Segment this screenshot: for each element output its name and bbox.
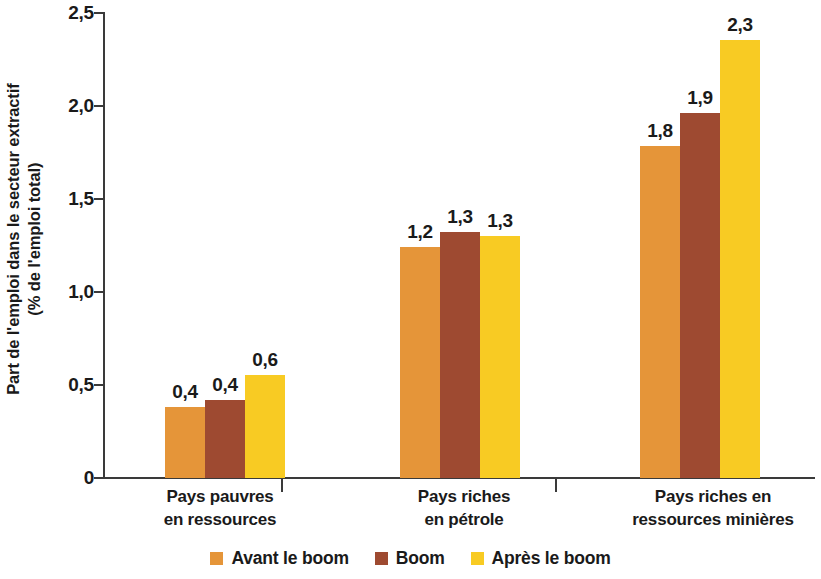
- chart-legend: Avant le boom Boom Après le boom: [0, 548, 821, 569]
- x-category-label-2-line-1: Pays riches: [374, 486, 554, 509]
- x-category-label-2-line-2: en pétrole: [374, 509, 554, 532]
- x-axis-separator-2: [555, 479, 557, 492]
- bar-2-1: [400, 247, 440, 478]
- bar-1-1: [165, 407, 205, 478]
- x-category-label-3-line-1: Pays riches en: [613, 486, 813, 509]
- bar-value-label-3-3: 2,3: [710, 14, 770, 36]
- legend-swatch-icon-avant-le-boom: [210, 552, 223, 565]
- legend-label-apres-le-boom: Après le boom: [492, 548, 611, 569]
- y-tick-label-0-5: 0,5: [50, 374, 94, 396]
- bar-1-2: [205, 400, 245, 478]
- y-tick-label-1-0: 1,0: [50, 281, 94, 303]
- bar-value-label-1-3: 0,6: [235, 349, 295, 371]
- legend-label-boom: Boom: [396, 548, 445, 569]
- bar-1-3: [245, 375, 285, 478]
- x-category-label-1-line-2: en ressources: [130, 509, 310, 532]
- bar-chart: Part de l'emploi dans le secteur extract…: [0, 0, 821, 579]
- x-category-label-3-line-2: ressources minières: [613, 509, 813, 532]
- legend-swatch-icon-apres-le-boom: [471, 552, 484, 565]
- bar-3-1: [640, 146, 680, 478]
- legend-label-avant-le-boom: Avant le boom: [231, 548, 348, 569]
- legend-item-boom: Boom: [375, 548, 445, 569]
- plot-area: 0,40,40,61,21,31,31,81,92,3: [103, 12, 815, 478]
- y-tick-label-1-5: 1,5: [50, 188, 94, 210]
- bar-3-2: [680, 113, 720, 478]
- legend-item-apres-le-boom: Après le boom: [471, 548, 611, 569]
- y-tick-label-0: 0: [50, 467, 94, 489]
- y-tick-label-2-0: 2,0: [50, 95, 94, 117]
- bar-3-3: [720, 40, 760, 478]
- legend-item-avant-le-boom: Avant le boom: [210, 548, 348, 569]
- y-axis-tick-labels: 2,5 2,0 1,5 1,0 0,5 0: [50, 0, 94, 490]
- bar-2-3: [480, 236, 520, 478]
- bar-2-2: [440, 232, 480, 478]
- y-tick-label-2-5: 2,5: [50, 2, 94, 24]
- y-axis-title-line-1: Part de l'emploi dans le secteur extract…: [3, 83, 24, 395]
- y-axis-title: Part de l'emploi dans le secteur extract…: [0, 0, 48, 478]
- bar-value-label-2-3: 1,3: [470, 210, 530, 232]
- x-category-label-1-line-1: Pays pauvres: [130, 486, 310, 509]
- x-category-label-2: Pays riches en pétrole: [374, 486, 554, 531]
- x-category-label-1: Pays pauvres en ressources: [130, 486, 310, 531]
- y-axis-title-line-2: (% de l'emploi total): [24, 83, 45, 395]
- legend-swatch-icon-boom: [375, 552, 388, 565]
- x-category-label-3: Pays riches en ressources minières: [613, 486, 813, 531]
